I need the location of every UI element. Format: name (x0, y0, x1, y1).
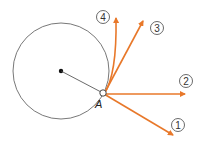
point-a-label: A (94, 98, 102, 110)
label-3: 3 (151, 22, 164, 35)
circle-tangent-diagram: A 4 3 2 1 (0, 0, 203, 145)
svg-text:2: 2 (183, 76, 189, 87)
radius-line (61, 71, 101, 92)
label-1: 1 (172, 119, 185, 132)
svg-text:1: 1 (175, 120, 181, 131)
label-4: 4 (97, 11, 110, 24)
label-2: 2 (180, 75, 193, 88)
arrow-4 (104, 18, 116, 94)
point-a (100, 90, 106, 96)
svg-text:4: 4 (100, 12, 106, 23)
svg-text:3: 3 (154, 23, 160, 34)
arrow-1 (104, 94, 173, 135)
